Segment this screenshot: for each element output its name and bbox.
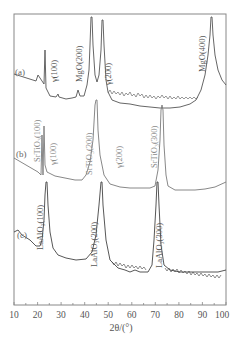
x-tick-labels: 10 20 30 40 50 60 70 80 90 100: [9, 310, 229, 320]
x-axis-title: 2θ/(°): [109, 322, 132, 334]
peak-label-b-gamma100: γ(100): [48, 143, 58, 166]
series-c-noise: [112, 262, 221, 278]
peak-label-c-lao300: LaAlO₃(300): [154, 223, 164, 268]
x-tick-10: 10: [9, 310, 19, 320]
x-tick-80: 80: [174, 310, 184, 320]
peak-label-a-gamma100: γ(100): [49, 60, 59, 83]
x-tick-90: 90: [198, 310, 208, 320]
peak-label-c-lao100: LaAlO₃(100): [35, 205, 45, 250]
xrd-chart: 10 20 30 40 50 60 70 80 90 100 2θ/(°) (a…: [0, 0, 243, 345]
x-tick-100: 100: [215, 310, 230, 320]
peak-label-a-gamma200: γ(200): [103, 63, 113, 86]
x-tick-20: 20: [33, 310, 43, 320]
peak-label-a-mgo400: MgO(400): [197, 35, 207, 72]
peak-label-a-mgo200: MgO(200): [74, 45, 84, 82]
series-a-curve: [14, 17, 226, 108]
x-tick-30: 30: [56, 310, 66, 320]
series-b-curve: [14, 100, 226, 190]
peak-label-b-gamma200: γ(200): [114, 146, 124, 169]
x-tick-60: 60: [127, 310, 137, 320]
series-a-noise: [108, 90, 198, 99]
peak-label-b-sto300: SrTiO₃(300): [149, 126, 159, 168]
peak-label-c-lao200: LaAlO₃(200): [89, 222, 99, 267]
peak-label-b-sto200: SrTiO₃(200): [84, 133, 94, 175]
x-tick-50: 50: [103, 310, 113, 320]
series-c-curve: [14, 182, 226, 272]
x-tick-70: 70: [151, 310, 161, 320]
series-c-label: (c): [17, 230, 27, 240]
x-tick-40: 40: [80, 310, 90, 320]
series-a-label: (a): [15, 67, 25, 77]
series-b-label: (b): [16, 149, 27, 159]
peak-label-b-sto100: SrTiO₃(100): [32, 120, 42, 162]
